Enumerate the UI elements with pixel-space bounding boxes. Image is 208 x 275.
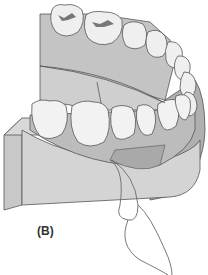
panel-label: (B) bbox=[37, 224, 54, 238]
dental-arch-illustration bbox=[0, 0, 208, 275]
